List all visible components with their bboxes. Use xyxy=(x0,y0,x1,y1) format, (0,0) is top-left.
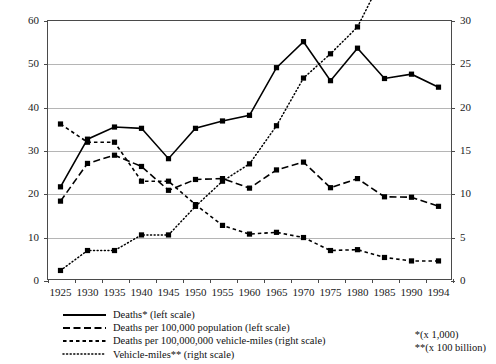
gridline xyxy=(48,194,451,195)
traffic-deaths-chart: 0102030405060051015202530192519301935194… xyxy=(0,0,496,364)
y-axis-label-right: 0 xyxy=(460,275,490,286)
x-axis-tick xyxy=(291,279,292,283)
y-axis-label-left: 10 xyxy=(9,232,39,243)
chart-footnotes: *(x 1,000) **(x 100 billion) xyxy=(415,328,486,354)
y-axis-label-right: 15 xyxy=(460,145,490,156)
y-axis-label-left: 20 xyxy=(9,188,39,199)
chart-legend: Deaths* (left scale)Deaths per 100,000 p… xyxy=(62,308,326,361)
gridline xyxy=(48,151,451,152)
y-axis-tick-right xyxy=(451,238,455,239)
y-axis-tick-right xyxy=(451,64,455,65)
gridline xyxy=(48,238,451,239)
y-axis-tick-left xyxy=(44,64,48,65)
x-axis-tick xyxy=(345,279,346,283)
x-axis-tick xyxy=(75,279,76,283)
y-axis-label-left: 50 xyxy=(9,58,39,69)
y-axis-tick-right xyxy=(451,151,455,152)
y-axis-label-right: 30 xyxy=(460,15,490,26)
x-axis-tick xyxy=(372,279,373,283)
legend-key-long-dash-icon xyxy=(62,322,108,334)
footnote-2: **(x 100 billion) xyxy=(415,341,486,354)
legend-key-short-dash-icon xyxy=(62,335,108,347)
legend-label: Deaths* (left scale) xyxy=(113,308,195,321)
x-axis-tick xyxy=(318,279,319,283)
y-axis-label-right: 10 xyxy=(460,188,490,199)
x-axis-tick xyxy=(156,279,157,283)
legend-key-solid-icon xyxy=(62,309,108,321)
x-axis-tick xyxy=(399,279,400,283)
x-axis-label: 1994 xyxy=(419,287,459,298)
x-axis-tick xyxy=(210,279,211,283)
legend-item: Vehicle-miles** (right scale) xyxy=(62,348,326,361)
x-axis-tick xyxy=(48,279,49,283)
y-axis-tick-left xyxy=(44,238,48,239)
y-axis-label-right: 5 xyxy=(460,232,490,243)
gridline xyxy=(48,108,451,109)
y-axis-label-left: 30 xyxy=(9,145,39,156)
x-axis-tick xyxy=(237,279,238,283)
y-axis-tick-left xyxy=(44,108,48,109)
x-axis-tick xyxy=(102,279,103,283)
legend-label: Deaths per 100,000,000 vehicle-miles (ri… xyxy=(113,334,326,347)
y-axis-label-left: 0 xyxy=(9,275,39,286)
legend-key-dotted-icon xyxy=(62,348,108,360)
gridline xyxy=(48,64,451,65)
x-axis-tick xyxy=(264,279,265,283)
legend-label: Deaths per 100,000 population (left scal… xyxy=(113,321,290,334)
y-axis-label-right: 20 xyxy=(460,102,490,113)
plot-area xyxy=(47,20,452,280)
legend-item: Deaths per 100,000 population (left scal… xyxy=(62,321,326,334)
x-axis-tick xyxy=(426,279,427,283)
legend-item: Deaths* (left scale) xyxy=(62,308,326,321)
legend-label: Vehicle-miles** (right scale) xyxy=(113,348,234,361)
legend-item: Deaths per 100,000,000 vehicle-miles (ri… xyxy=(62,334,326,347)
y-axis-tick-right xyxy=(451,21,455,22)
y-axis-label-left: 60 xyxy=(9,15,39,26)
y-axis-label-right: 25 xyxy=(460,58,490,69)
y-axis-tick-right xyxy=(451,108,455,109)
y-axis-tick-left xyxy=(44,151,48,152)
y-axis-label-left: 40 xyxy=(9,102,39,113)
x-axis-tick xyxy=(453,279,454,283)
y-axis-tick-left xyxy=(44,194,48,195)
y-axis-tick-left xyxy=(44,21,48,22)
y-axis-tick-right xyxy=(451,194,455,195)
footnote-1: *(x 1,000) xyxy=(415,328,486,341)
x-axis-tick xyxy=(183,279,184,283)
x-axis-tick xyxy=(129,279,130,283)
